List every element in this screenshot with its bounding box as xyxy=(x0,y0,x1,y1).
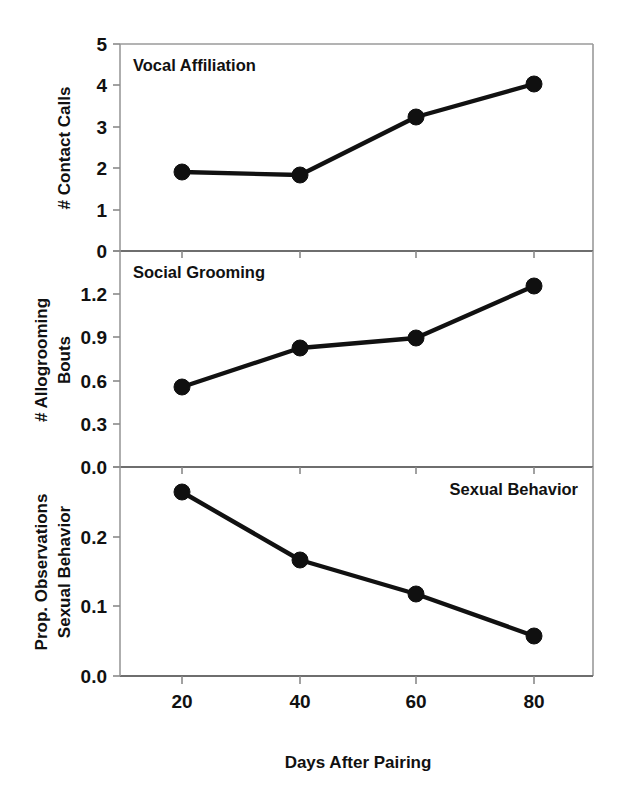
panel-2-data-point xyxy=(408,330,424,346)
panel-3-series-line xyxy=(182,492,534,636)
panel-3-x-ticks xyxy=(182,676,534,684)
panel-2-series xyxy=(174,278,542,395)
panel-1-series-line xyxy=(182,84,534,175)
panel-2-ytick-0-6: 0.6 xyxy=(81,371,107,392)
panel-2-data-point xyxy=(292,340,308,356)
panel-1-ytick-3: 3 xyxy=(96,117,107,138)
panel-3-data-point xyxy=(174,484,190,500)
panel-2-ytick-0-3: 0.3 xyxy=(81,414,107,435)
panel-2-data-point xyxy=(526,278,542,294)
panel-3-ytick-0-1: 0.1 xyxy=(81,596,108,617)
panel-2-y-axis-title-line2: Bouts xyxy=(55,336,74,384)
panel-3-series xyxy=(174,484,542,644)
panel-1-title: Vocal Affiliation xyxy=(133,56,256,74)
panel-3-data-point xyxy=(408,586,424,602)
panel-2-title: Social Grooming xyxy=(133,263,265,281)
x-axis-title: Days After Pairing xyxy=(285,753,432,772)
xtick-label-60: 60 xyxy=(405,691,426,712)
panel-1-ytick-4: 4 xyxy=(96,75,107,96)
panel-1-ytick-5: 5 xyxy=(96,34,107,55)
panel-2-data-point xyxy=(174,379,190,395)
xtick-label-80: 80 xyxy=(523,691,544,712)
panel-3-ytick-0-0: 0.0 xyxy=(81,666,107,687)
panel-2-frame xyxy=(120,251,593,467)
panel-3-y-axis-title-line1: Prop. Observations xyxy=(32,494,51,651)
panel-1-ytick-0: 0 xyxy=(96,241,107,262)
panel-1-series xyxy=(174,76,542,183)
panel-1-y-axis-title: # Contact Calls xyxy=(55,87,74,210)
multi-panel-line-chart: 5 4 3 2 1 0 # Contact Calls Vocal Affili… xyxy=(0,0,626,805)
panel-1-y-ticks xyxy=(113,44,120,251)
panel-3-y-axis-title-line2: Sexual Behavior xyxy=(55,505,74,638)
xtick-label-20: 20 xyxy=(171,691,192,712)
panel-3-y-ticks xyxy=(113,467,120,676)
panel-1-data-point xyxy=(408,109,424,125)
panel-2-y-ticks xyxy=(113,251,120,467)
xtick-label-40: 40 xyxy=(289,691,310,712)
panel-1-data-point xyxy=(174,164,190,180)
panel-2-ytick-0-9: 0.9 xyxy=(81,327,107,348)
panel-3-data-point xyxy=(526,628,542,644)
panel-1-ytick-2: 2 xyxy=(96,158,107,179)
panel-2-x-ticks xyxy=(182,467,534,474)
panel-2-ytick-1-2: 1.2 xyxy=(81,284,107,305)
figure-container: 5 4 3 2 1 0 # Contact Calls Vocal Affili… xyxy=(0,0,626,805)
panel-3-title: Sexual Behavior xyxy=(450,480,579,498)
panel-1-data-point xyxy=(292,167,308,183)
panel-2-y-axis-title-line1: # Allogrooming xyxy=(32,298,51,422)
panel-2-ytick-0-0: 0.0 xyxy=(81,457,107,478)
panel-1-x-ticks xyxy=(182,251,534,258)
panel-1-ytick-1: 1 xyxy=(96,200,107,221)
panel-3-data-point xyxy=(292,552,308,568)
panel-1-data-point xyxy=(526,76,542,92)
panel-2-series-line xyxy=(182,286,534,387)
panel-3-ytick-0-2: 0.2 xyxy=(81,527,107,548)
